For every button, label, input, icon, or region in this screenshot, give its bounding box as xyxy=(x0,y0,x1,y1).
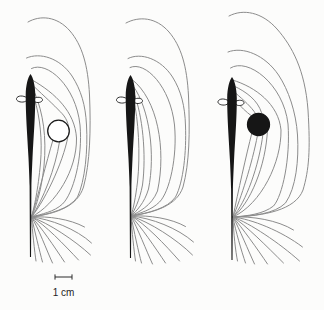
panels-layer xyxy=(16,12,309,264)
nonconductive-object-circle xyxy=(48,120,70,142)
field-line xyxy=(130,66,175,216)
fish-left-fin xyxy=(116,97,127,103)
fish-body xyxy=(227,77,237,260)
panel-no-object xyxy=(116,19,193,264)
panel-nonconductive-object xyxy=(16,18,91,263)
field-line xyxy=(229,12,309,217)
field-line xyxy=(233,133,252,218)
fish-left-fin xyxy=(16,96,27,102)
scale-bar-label: 1 cm xyxy=(53,287,75,298)
field-line xyxy=(32,217,79,260)
panel-conductive-object xyxy=(218,12,309,264)
fish-left-fin xyxy=(218,99,229,105)
scale-bar xyxy=(55,274,72,279)
electric-fish-field-figure: 1 cm xyxy=(0,0,324,310)
conductive-object-circle xyxy=(248,114,270,136)
fish-body xyxy=(26,74,36,257)
fish-silhouette xyxy=(16,74,42,257)
field-diagram: 1 cm xyxy=(0,0,324,310)
field-line xyxy=(234,86,262,113)
